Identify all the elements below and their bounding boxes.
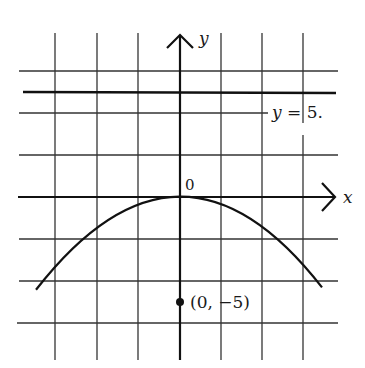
- directrix-label: y = 5.: [271, 102, 323, 122]
- origin-label: 0: [185, 176, 195, 194]
- focus-point: [176, 298, 184, 306]
- y-axis-label: y: [198, 28, 209, 48]
- focus-label: (0, −5): [190, 292, 250, 312]
- parabola-diagram: y = 5. x y 0 (0, −5): [0, 0, 365, 368]
- x-axis-label: x: [343, 187, 353, 207]
